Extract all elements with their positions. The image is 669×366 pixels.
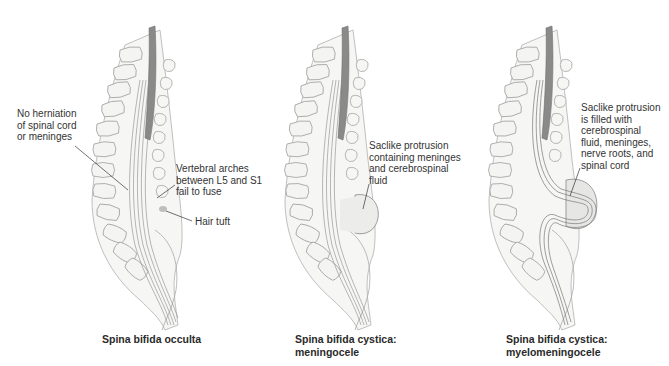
label-saclike-meninges: Saclike protrusion containing meninges a… [369, 140, 461, 186]
spine-myelomeningocele [489, 26, 597, 330]
spine-illustrations [0, 0, 669, 366]
label-saclike-cord: Saclike protrusion is filled with cerebr… [581, 102, 660, 171]
caption-meningocele: Spina bifida cystica: meningocele [295, 333, 397, 358]
label-no-herniation: No herniation of spinal cord or meninges [17, 108, 76, 143]
label-hair-tuft: Hair tuft [195, 216, 230, 228]
label-vertebral-arches: Vertebral arches between L5 and S1 fail … [176, 163, 262, 198]
spina-bifida-diagram: No herniation of spinal cord or meninges… [0, 0, 669, 366]
caption-occulta: Spina bifida occulta [102, 333, 201, 346]
spine-occulta [92, 26, 183, 330]
spine-meningocele [285, 26, 379, 330]
caption-myelomeningocele: Spina bifida cystica: myelomeningocele [506, 333, 608, 358]
